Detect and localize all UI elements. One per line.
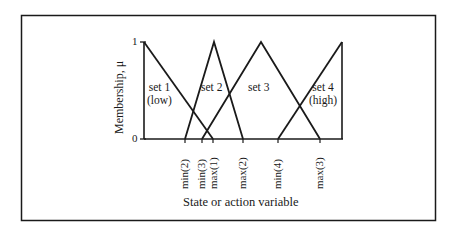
x-tick-label-max3: max(3): [314, 157, 325, 189]
set1-qualifier: (low): [147, 94, 172, 107]
x-axis-label: State or action variable: [183, 196, 299, 209]
set4-name: set 4: [309, 81, 337, 94]
x-tick-label-min2: min(2): [179, 159, 190, 189]
set1-label: set 1 (low): [147, 81, 172, 107]
y-tick-label-0: 0: [132, 133, 138, 144]
set4-label: set 4 (high): [309, 81, 337, 107]
figure-frame: [22, 16, 436, 221]
set3-label: set 3: [248, 81, 269, 94]
x-tick-label-max1: max(1): [208, 157, 219, 189]
x-tick-label-max2: max(2): [237, 157, 248, 189]
set4-qualifier: (high): [309, 94, 337, 107]
set2-name: set 2: [201, 81, 222, 94]
x-tick-label-min3: min(3): [196, 159, 207, 189]
set3-name: set 3: [248, 81, 269, 94]
set2-label: set 2: [201, 81, 222, 94]
fuzzy-membership-figure: 1 0 Membership, μ set 1 (low) set 2 set …: [0, 0, 456, 233]
y-tick-label-1: 1: [132, 36, 138, 47]
y-axis-label: Membership, μ: [113, 61, 125, 134]
set1-name: set 1: [147, 81, 172, 94]
x-tick-label-min4: min(4): [272, 159, 283, 189]
